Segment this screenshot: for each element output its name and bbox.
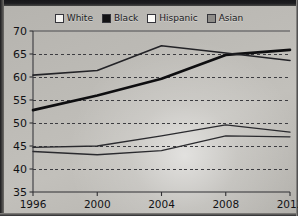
y-axis-tick-label: 60	[13, 71, 27, 84]
x-axis-tick-label: 2012	[277, 198, 298, 210]
y-axis-tick-label: 65	[13, 48, 27, 61]
x-axis-tick-label: 2008	[212, 198, 239, 210]
x-axis-tick-label: 2004	[148, 198, 175, 210]
plot-area: 3540455055606570 19962000200420082012	[0, 0, 298, 216]
chart-figure: White Black Hispanic Asian 3540455055606…	[0, 0, 298, 216]
x-axis-labels: 19962000200420082012	[20, 198, 298, 210]
axis-lines	[33, 31, 290, 192]
y-axis-tick-label: 55	[13, 94, 27, 107]
x-axis-tick-label: 1996	[20, 198, 47, 210]
y-axis-tick-label: 70	[13, 25, 27, 38]
y-axis-tick-label: 50	[13, 117, 27, 130]
series-line-asian	[33, 46, 290, 75]
series-line-white	[33, 136, 290, 155]
y-axis-tick-label: 45	[13, 140, 27, 153]
line-chart-svg: 3540455055606570 19962000200420082012	[0, 0, 298, 216]
x-axis-tick-label: 2000	[84, 198, 111, 210]
x-axis-ticks	[33, 192, 290, 196]
y-axis-labels: 3540455055606570	[13, 25, 27, 199]
y-axis-tick-label: 40	[13, 163, 27, 176]
series-line-black	[33, 50, 290, 110]
